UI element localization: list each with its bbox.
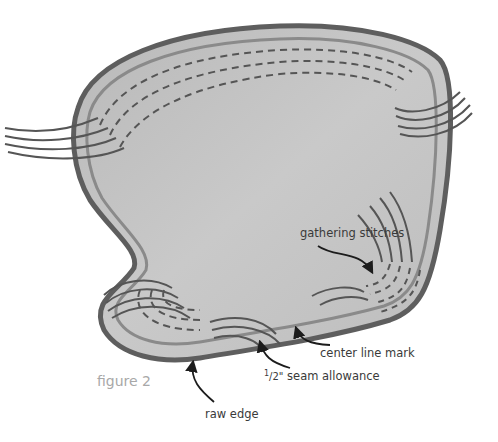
seam-fraction-rest: /2": [269, 371, 283, 382]
annotation-raw-edge: raw edge: [192, 362, 258, 421]
sewing-pattern-diagram: gathering stitches center line mark 1/2"…: [0, 0, 498, 442]
label-seam-allowance: 1/2" seam allowance: [264, 369, 380, 383]
label-center-line-mark: center line mark: [320, 346, 415, 360]
arrow-raw-edge: [192, 362, 214, 402]
label-gathering-stitches: gathering stitches: [300, 226, 404, 240]
seam-allowance-text: seam allowance: [283, 369, 379, 383]
label-raw-edge: raw edge: [205, 407, 259, 421]
figure-caption: figure 2: [97, 373, 151, 389]
